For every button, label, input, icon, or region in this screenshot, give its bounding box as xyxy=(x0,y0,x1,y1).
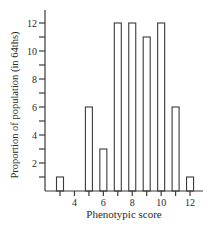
bar-score-7 xyxy=(114,23,121,191)
bar-score-10 xyxy=(158,23,165,191)
bar-score-8 xyxy=(129,23,136,191)
y-tick-label: 8 xyxy=(32,74,37,85)
x-tick-label: 6 xyxy=(101,197,106,208)
x-axis-label: Phenotypic score xyxy=(86,208,162,220)
x-tick-label: 4 xyxy=(72,197,77,208)
bars xyxy=(57,23,194,191)
bar-score-6 xyxy=(100,149,107,191)
bar-chart: 24681012 4681012 Phenotypic score Propor… xyxy=(0,0,211,230)
bar-score-3 xyxy=(57,177,64,191)
bar-score-5 xyxy=(85,107,92,191)
x-tick-label: 12 xyxy=(185,197,195,208)
y-tick-label: 6 xyxy=(32,102,37,113)
y-axis-ticks: 24681012 xyxy=(27,18,45,178)
bar-score-12 xyxy=(187,177,194,191)
bar-score-9 xyxy=(143,37,150,191)
x-axis-ticks: 4681012 xyxy=(60,191,195,208)
y-tick-label: 4 xyxy=(32,130,37,141)
y-tick-label: 12 xyxy=(27,18,37,29)
x-tick-label: 8 xyxy=(130,197,135,208)
y-axis-label: Proportion of population (in 64ths) xyxy=(9,31,21,178)
y-tick-label: 2 xyxy=(32,158,37,169)
bar-score-11 xyxy=(172,107,179,191)
y-tick-label: 10 xyxy=(27,46,37,57)
x-tick-label: 10 xyxy=(156,197,166,208)
